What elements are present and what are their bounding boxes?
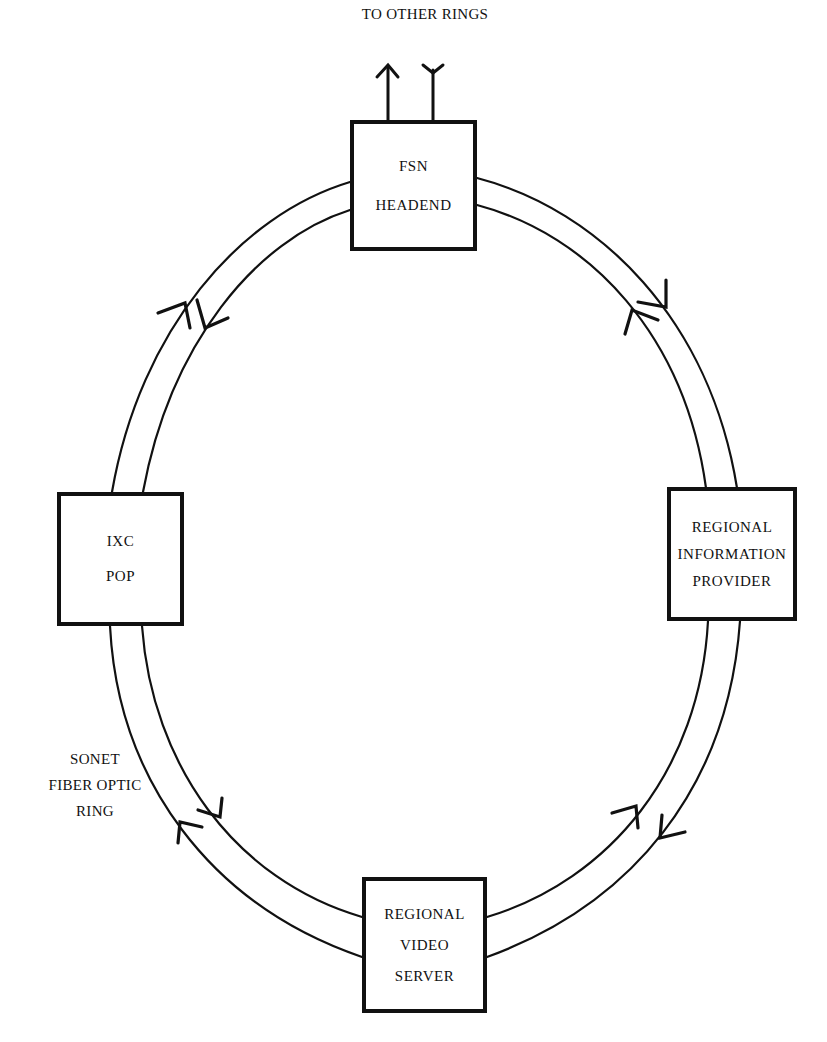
node-label: INFORMATION xyxy=(678,547,787,562)
node-regional-information-provider: REGIONAL INFORMATION PROVIDER xyxy=(667,487,797,621)
sonet-ring-label-line: FIBER OPTIC xyxy=(40,772,150,798)
node-label: PROVIDER xyxy=(692,574,771,589)
node-label: POP xyxy=(106,569,135,584)
sonet-ring-label-line: RING xyxy=(40,798,150,824)
node-label: FSN xyxy=(399,159,428,174)
node-label: REGIONAL xyxy=(692,520,773,535)
node-label: HEADEND xyxy=(376,198,452,213)
sonet-ring-diagram: TO OTHER RINGS SONET FIBER OPTIC RING FS… xyxy=(0,0,827,1042)
ring-inner-top-right xyxy=(477,205,706,488)
ring-inner-bottom-right xyxy=(487,621,708,917)
sonet-ring-label: SONET FIBER OPTIC RING xyxy=(40,746,150,824)
ring-outer-top-left xyxy=(112,182,350,492)
node-label: VIDEO xyxy=(400,938,449,953)
to-other-rings-label: TO OTHER RINGS xyxy=(320,6,530,23)
node-ixc-pop: IXC POP xyxy=(57,492,184,626)
node-label: REGIONAL xyxy=(384,907,465,922)
node-fsn-headend: FSN HEADEND xyxy=(350,120,477,251)
node-label: SERVER xyxy=(395,969,454,984)
sonet-ring-label-line: SONET xyxy=(40,746,150,772)
ring-inner-bottom-left xyxy=(142,626,362,917)
arrow-up-icon xyxy=(612,806,638,828)
node-regional-video-server: REGIONAL VIDEO SERVER xyxy=(362,877,487,1013)
node-label: IXC xyxy=(107,534,134,549)
ring-inner-top-left xyxy=(143,210,350,492)
